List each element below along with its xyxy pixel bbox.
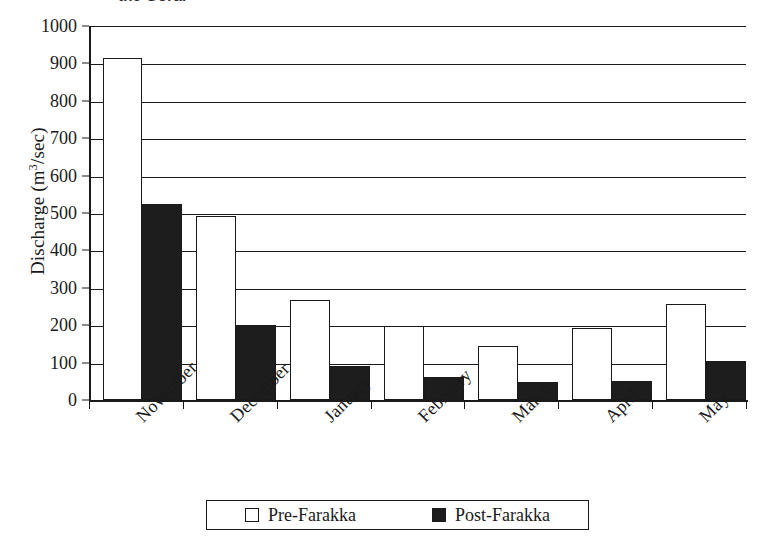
legend-item-post-farakka: Post-Farakka [432, 505, 550, 526]
legend-swatch-pre-farakka [245, 508, 259, 522]
x-tick-label-december: December [226, 359, 294, 427]
x-axis-labels: NovemberDecemberJanuaryFebruaryMarchApri… [0, 0, 764, 540]
chart-figure: the Gorai Discharge (m3/sec) 01002003004… [0, 0, 764, 540]
chart-legend: Pre-Farakka Post-Farakka [206, 500, 589, 530]
x-tick-label-april: April [601, 384, 643, 426]
x-tick-label-may: May [695, 388, 734, 427]
legend-label-pre-farakka: Pre-Farakka [268, 505, 356, 526]
x-tick-label-march: March [508, 378, 557, 427]
legend-label-post-farakka: Post-Farakka [455, 505, 550, 526]
x-tick-label-february: February [414, 365, 476, 427]
legend-swatch-post-farakka [432, 508, 446, 522]
legend-item-pre-farakka: Pre-Farakka [245, 505, 356, 526]
x-tick-label-november: November [132, 357, 202, 427]
x-tick-label-january: January [320, 371, 375, 426]
